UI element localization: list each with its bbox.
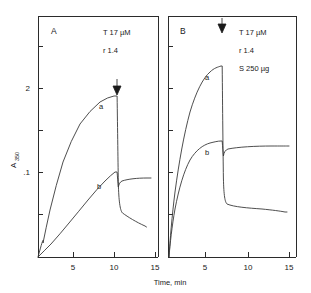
panel-a-arrow-down-marker — [113, 79, 121, 95]
panel-b-curve-b-label: b — [205, 148, 209, 157]
panel-b-annotation-1: r 1.4 — [239, 46, 254, 55]
y-axis-title: A 350 — [9, 152, 20, 168]
y-axis-title-main: A — [9, 162, 18, 168]
panel-a-letter: A — [51, 26, 57, 36]
panel-a-annotation-0: T 17 µM — [103, 28, 131, 37]
panel-b-x-label-10: 10 — [244, 263, 253, 272]
panel-b-x-label-15: 15 — [285, 263, 294, 272]
y-tick-label-02: 2 — [26, 84, 31, 93]
panel-b-y-ticks — [168, 46, 173, 214]
panel-a-annotation-1: r 1.4 — [103, 46, 118, 55]
panel-b-x-ticks — [205, 252, 289, 257]
y-axis-title-sub: 350 — [14, 152, 20, 161]
panel-a-curve-a — [38, 96, 147, 257]
panel-a-curve-b — [38, 172, 151, 257]
panel-b-curve-b — [169, 141, 289, 257]
panel-a-x-ticks — [73, 252, 155, 257]
panel-a-curve-a-label: a — [99, 102, 104, 111]
panel-b-arrow-down-marker — [218, 18, 226, 33]
panel-b-letter: B — [180, 26, 186, 36]
panel-b-annotation-2: S 250 µg — [239, 64, 269, 73]
panel-a-x-label-10: 10 — [110, 263, 119, 272]
panel-a-x-label-5: 5 — [71, 263, 76, 272]
absorbance-vs-time-figure: 2 .1 A 350 5 10 15 A T 17 µM r 1.4 — [0, 0, 311, 293]
panel-a-x-label-15: 15 — [151, 263, 160, 272]
x-axis-title: Time, min — [154, 278, 187, 287]
y-tick-label-01: .1 — [23, 168, 30, 177]
panel-b-curve-a-label: a — [205, 73, 210, 82]
panel-b-annotation-0: T 17 µM — [239, 28, 267, 37]
panel-a-curve-b-label: b — [97, 182, 101, 191]
panel-b-curve-a — [169, 66, 287, 257]
y-axis-ticks — [38, 46, 43, 214]
panel-a-frame — [38, 16, 158, 257]
panel-b-x-label-5: 5 — [203, 263, 208, 272]
panel-b-frame — [168, 16, 296, 257]
figure-container: 2 .1 A 350 5 10 15 A T 17 µM r 1.4 — [0, 0, 311, 293]
